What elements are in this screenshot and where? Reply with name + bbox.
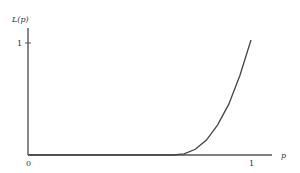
x-tick-label-1: 1 — [249, 159, 254, 168]
x-axis-label: p — [281, 151, 286, 160]
y-axis-label: L(p) — [11, 15, 29, 24]
lorenz-curve — [28, 40, 251, 155]
y-tick-label-1: 1 — [17, 39, 22, 48]
origin-label: 0 — [26, 159, 31, 168]
chart: L(p) 1 0 1 p — [0, 0, 300, 173]
